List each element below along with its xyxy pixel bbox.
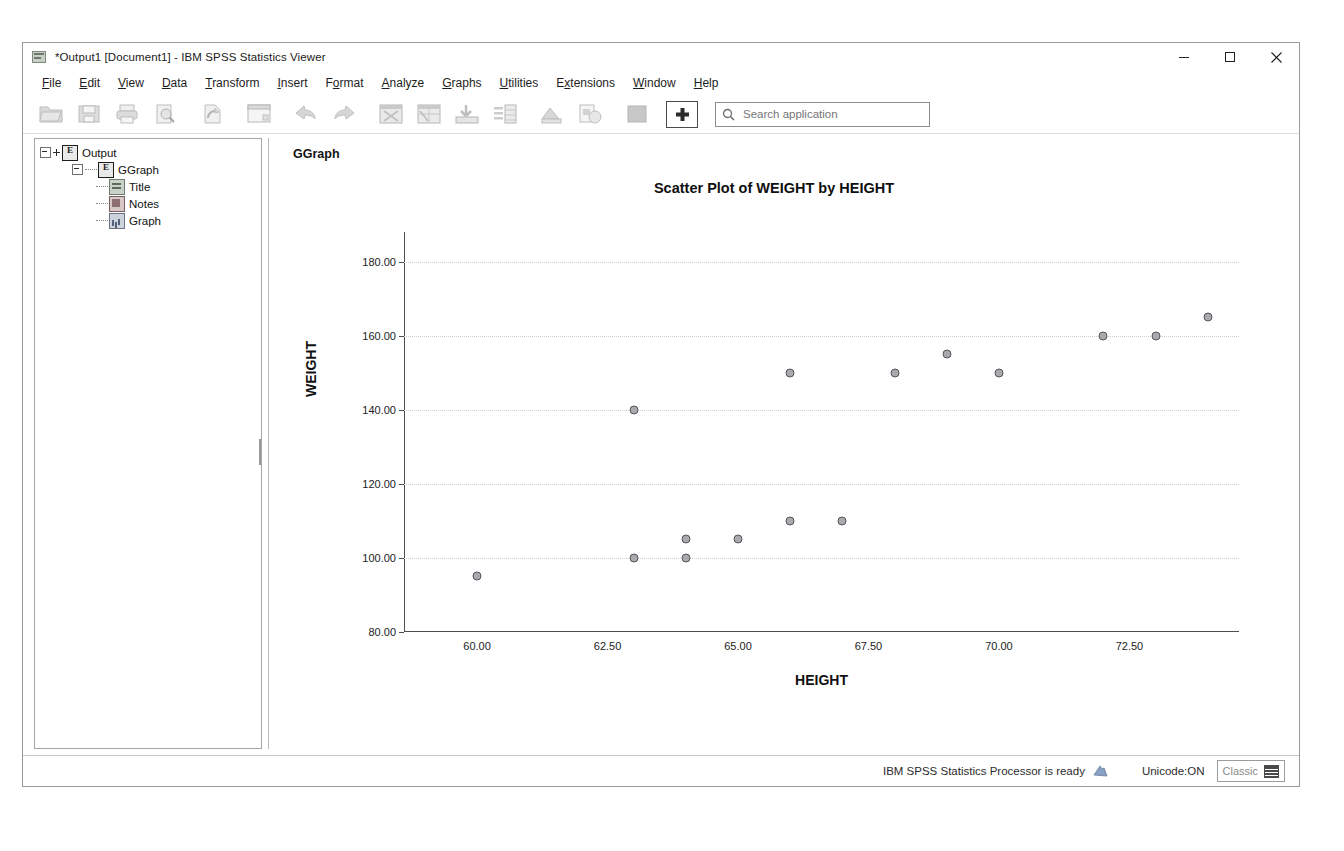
scatter-point	[1203, 313, 1212, 322]
classic-mode-label: Classic	[1223, 765, 1258, 777]
tree-node-title[interactable]: Title	[40, 178, 261, 195]
y-tick-mark	[399, 632, 404, 633]
new-window-icon[interactable]	[241, 98, 276, 130]
undo-icon[interactable]	[288, 98, 323, 130]
close-icon[interactable]	[1253, 43, 1299, 71]
output-content-pane[interactable]: GGraph Scatter Plot of WEIGHT by HEIGHT …	[268, 138, 1288, 749]
menu-view[interactable]: View	[109, 74, 153, 92]
scatter-point	[994, 368, 1003, 377]
tree-node-graph-label: Graph	[129, 215, 161, 227]
search-application-box[interactable]	[715, 102, 930, 127]
print-preview-icon[interactable]	[147, 98, 182, 130]
collapse-toggle-output-icon[interactable]	[40, 147, 51, 158]
output-node-icon	[62, 145, 78, 161]
recall-dialog-icon[interactable]	[194, 98, 229, 130]
plot-wrap: WEIGHT HEIGHT 80.00100.00120.00140.00160…	[309, 232, 1239, 652]
menu-extensions[interactable]: Extensions	[547, 74, 624, 92]
menu-utilities[interactable]: Utilities	[491, 74, 548, 92]
spss-viewer-icon	[31, 49, 48, 65]
tree-node-output-label: Output	[82, 147, 117, 159]
tree-node-notes-label: Notes	[129, 198, 159, 210]
status-processor-text: IBM SPSS Statistics Processor is ready	[883, 765, 1085, 777]
y-tick-label: 120.00	[362, 478, 396, 490]
tree-connector	[96, 220, 108, 222]
y-tick-mark	[399, 336, 404, 337]
plus-marker-icon	[53, 148, 60, 157]
scatter-point	[1151, 331, 1160, 340]
show-hide-icon[interactable]	[534, 98, 569, 130]
menu-format[interactable]: Format	[317, 74, 373, 92]
menu-analyze[interactable]: Analyze	[373, 74, 434, 92]
search-icon	[722, 108, 735, 121]
scatter-point	[1099, 331, 1108, 340]
notes-node-icon	[109, 196, 125, 212]
scatter-point	[786, 368, 795, 377]
ggraph-heading: GGraph	[293, 147, 340, 161]
scatter-point	[473, 572, 482, 581]
insert-table-icon[interactable]	[487, 98, 522, 130]
chart-title: Scatter Plot of WEIGHT by HEIGHT	[309, 180, 1239, 196]
scatter-point	[681, 535, 690, 544]
scatter-point	[786, 516, 795, 525]
menu-help[interactable]: Help	[685, 74, 728, 92]
collapse-toggle-ggraph-icon[interactable]	[72, 164, 83, 175]
insert-new-heading-icon[interactable]	[666, 101, 698, 128]
menu-edit[interactable]: Edit	[70, 74, 109, 92]
go-to-case-icon[interactable]	[411, 98, 446, 130]
plot-frame	[404, 232, 1239, 632]
scatter-chart: Scatter Plot of WEIGHT by HEIGHT WEIGHT …	[309, 180, 1239, 700]
processor-ready-icon	[1093, 764, 1108, 778]
outline-pane[interactable]: Output GGraph Title Notes	[34, 138, 262, 749]
menu-insert[interactable]: Insert	[268, 74, 316, 92]
status-bar: IBM SPSS Statistics Processor is ready U…	[23, 755, 1299, 786]
display-mode-button[interactable]: Classic	[1217, 760, 1285, 782]
save-icon[interactable]	[71, 98, 106, 130]
maximize-icon[interactable]	[1207, 43, 1253, 71]
scatter-point	[629, 405, 638, 414]
tree-connector	[85, 169, 97, 171]
plot-area: 80.00100.00120.00140.00160.00180.0060.00…	[404, 232, 1239, 632]
go-to-data-icon[interactable]	[373, 98, 408, 130]
tree-node-graph[interactable]: Graph	[40, 212, 261, 229]
x-tick-label: 65.00	[724, 640, 752, 652]
minimize-icon[interactable]	[1161, 43, 1207, 71]
export-icon[interactable]	[449, 98, 484, 130]
pane-splitter-handle[interactable]	[259, 439, 262, 465]
tree-node-notes[interactable]: Notes	[40, 195, 261, 212]
x-tick-label: 70.00	[985, 640, 1013, 652]
menu-data[interactable]: Data	[153, 74, 196, 92]
open-file-icon[interactable]	[33, 98, 68, 130]
y-axis-label: WEIGHT	[303, 341, 319, 397]
scatter-point	[734, 535, 743, 544]
y-tick-label: 160.00	[362, 330, 396, 342]
window-title: *Output1 [Document1] - IBM SPSS Statisti…	[55, 51, 326, 63]
x-tick-label: 60.00	[463, 640, 491, 652]
redo-icon[interactable]	[326, 98, 361, 130]
title-bar: *Output1 [Document1] - IBM SPSS Statisti…	[23, 43, 1299, 71]
menu-transform[interactable]: Transform	[196, 74, 268, 92]
scatter-point	[942, 350, 951, 359]
print-icon[interactable]	[109, 98, 144, 130]
scatter-point	[681, 553, 690, 562]
status-unicode: Unicode:ON	[1142, 765, 1205, 777]
y-tick-mark	[399, 558, 404, 559]
tree-node-output[interactable]: Output	[40, 144, 261, 161]
spss-viewer-window: *Output1 [Document1] - IBM SPSS Statisti…	[22, 42, 1300, 787]
ggraph-node-icon	[98, 162, 114, 178]
y-gridline	[404, 558, 1239, 559]
classic-mode-icon	[1264, 765, 1279, 778]
window-controls	[1161, 43, 1299, 71]
menu-graphs[interactable]: Graphs	[433, 74, 490, 92]
tree-connector	[96, 203, 108, 205]
promote-icon[interactable]	[572, 98, 607, 130]
tree-node-ggraph[interactable]: GGraph	[40, 161, 261, 178]
menu-file[interactable]: File	[33, 74, 70, 92]
y-tick-mark	[399, 262, 404, 263]
scatter-point	[629, 553, 638, 562]
y-gridline	[404, 262, 1239, 263]
demote-icon[interactable]	[619, 98, 654, 130]
menu-window[interactable]: Window	[624, 74, 685, 92]
toolbar	[23, 95, 1299, 134]
search-input[interactable]	[741, 107, 923, 121]
y-tick-mark	[399, 484, 404, 485]
